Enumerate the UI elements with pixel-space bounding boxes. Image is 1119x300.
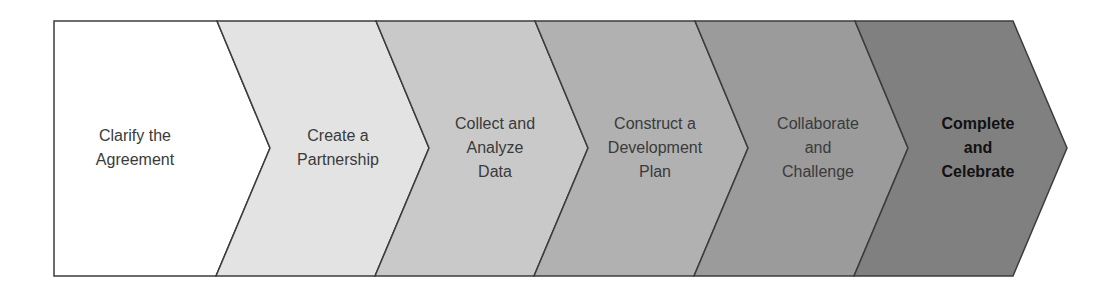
step-5-line-1: Collaborate <box>777 112 859 136</box>
step-6-line-1: Complete <box>942 112 1015 136</box>
step-5-label: Collaborate and Challenge <box>777 112 859 184</box>
step-5-line-3: Challenge <box>777 160 859 184</box>
step-3-line-2: Analyze <box>455 136 535 160</box>
step-2-line-2: Partnership <box>297 148 379 172</box>
step-6-line-2: and <box>942 136 1015 160</box>
step-6-line-3: Celebrate <box>942 160 1015 184</box>
step-2-label: Create a Partnership <box>297 124 379 172</box>
step-5-line-2: and <box>777 136 859 160</box>
step-3-label: Collect and Analyze Data <box>455 112 535 184</box>
step-4-line-3: Plan <box>608 160 702 184</box>
step-3-line-1: Collect and <box>455 112 535 136</box>
step-4-line-1: Construct a <box>608 112 702 136</box>
step-4-line-2: Development <box>608 136 702 160</box>
step-1-label: Clarify the Agreement <box>96 124 174 172</box>
step-2-line-1: Create a <box>297 124 379 148</box>
step-1-line-1: Clarify the <box>96 124 174 148</box>
step-4-label: Construct a Development Plan <box>608 112 702 184</box>
step-3-line-3: Data <box>455 160 535 184</box>
step-6-label: Complete and Celebrate <box>942 112 1015 184</box>
step-1-line-2: Agreement <box>96 148 174 172</box>
